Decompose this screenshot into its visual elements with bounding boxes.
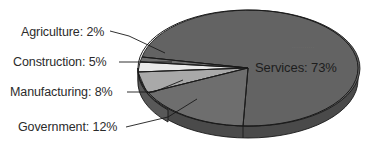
pie-chart-figure: Agriculture: 2% Construction: 5% Manufac… xyxy=(0,0,369,154)
slice-label-manufacturing: Manufacturing: 8% xyxy=(10,86,113,99)
slice-label-government: Government: 12% xyxy=(18,121,117,134)
slice-label-construction: Construction: 5% xyxy=(13,56,107,69)
slice-label-agriculture: Agriculture: 2% xyxy=(21,26,104,39)
slice-label-services: Services: 73% xyxy=(255,61,337,74)
watermark-text: ··········· xyxy=(292,44,346,51)
